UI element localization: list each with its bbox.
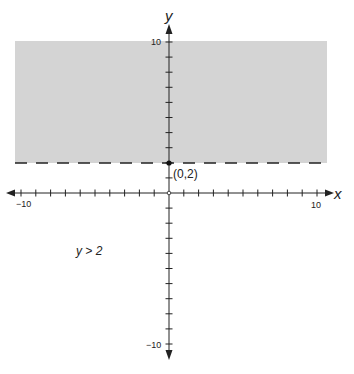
y-axis-down-arrow-icon	[166, 350, 173, 360]
x-min-tick-label: −10	[16, 199, 31, 209]
x-axis-label: x	[333, 185, 342, 202]
x-axis-left-arrow-icon	[6, 190, 15, 197]
point-0-2	[166, 160, 171, 165]
y-axis-up-arrow-icon	[166, 24, 173, 34]
y-axis-label: y	[164, 7, 174, 24]
inequality-label: y > 2	[75, 244, 103, 258]
origin-marker	[167, 191, 171, 195]
inequality-graph: y x 10 −10 −10 10 (0,2) y > 2	[0, 0, 354, 374]
point-label: (0,2)	[173, 167, 198, 181]
y-max-tick-label: 10	[151, 37, 161, 47]
y-min-tick-label: −10	[146, 340, 161, 350]
x-axis-right-arrow-icon	[325, 190, 334, 197]
x-max-tick-label: 10	[311, 200, 321, 210]
